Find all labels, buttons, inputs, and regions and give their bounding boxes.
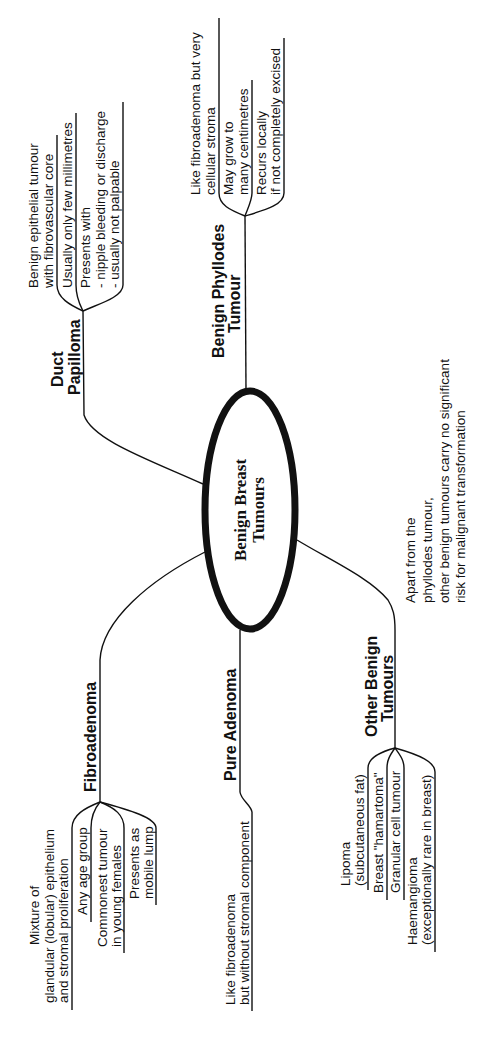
fibro-item2-line1: Any age group <box>75 827 90 915</box>
phyllodes-item2-line1: May grow to <box>221 121 236 195</box>
note-line1: Apart from the <box>403 517 418 603</box>
phyllodes-item2-line2: many centimetres <box>236 88 251 195</box>
duct-papilloma-title-line2: Papilloma <box>66 319 83 395</box>
fibro-item3-line1: Commonest tumour <box>95 828 110 947</box>
phyllodes-item3-line1: Recurs locally <box>254 111 269 195</box>
fibroadenoma-title: Fibroadenoma <box>82 682 99 792</box>
note-line4: risk for malignant transformation <box>453 410 468 603</box>
fibro-item4-line1: Presents as <box>127 827 142 899</box>
duct-item3-line2: - nipple bleeding or discharge <box>93 111 108 288</box>
duct-item2-line1: Usually only few millimetres <box>60 122 75 288</box>
other-item1-line1: Lipoma <box>338 841 353 886</box>
other-item3-line1: Granular cell tumour <box>388 770 403 893</box>
duct-item3-line3: - usually not palpable <box>107 160 122 288</box>
other-item4-line1: Haemangioma <box>405 857 420 945</box>
fibro-item4-line2: mobile lump <box>141 826 156 899</box>
fibro-item1-line1: Mixture of <box>27 885 42 945</box>
fibro-item1-line3: and stromal proliferation <box>56 858 71 1003</box>
central-title-line1: Benign Breast <box>231 459 250 562</box>
phyllodes-title-line1: Benign Phyllodes <box>210 224 227 358</box>
phyllodes-title-line2: Tumour <box>226 275 243 333</box>
phyllodes-item1-line1: Like fibroadenoma but very <box>188 32 203 195</box>
other-item1-line2: (subcutaneous fat) <box>352 774 367 886</box>
pure-adenoma-item1-line1: Like fibroadenoma <box>223 893 238 1005</box>
other-benign-title-line1: Other Benign <box>363 636 380 737</box>
duct-papilloma-title-line1: Duct <box>49 351 66 387</box>
note-line3: other benign tumours carry no significan… <box>437 359 452 603</box>
fibro-item1-line2: glandular (lobular) epithelium <box>42 829 57 1003</box>
connector-duct-papilloma <box>83 311 203 484</box>
pure-adenoma-title: Pure Adenoma <box>222 669 239 781</box>
central-title-line2: Tumours <box>249 477 268 543</box>
duct-item1-line2: with fibrovascular core <box>41 154 56 289</box>
mind-map: Benign Breast Tumours Duct Papilloma Ben… <box>0 0 504 1058</box>
fibro-item3-line2: in young females <box>109 845 124 947</box>
duct-item1-line1: Benign epithelial tumour <box>26 143 41 288</box>
duct-item3-line1: Presents with <box>78 207 93 288</box>
other-item2-line1: Breast "hamartoma" <box>371 772 386 893</box>
pure-adenoma-item1-line2: but without stromal component <box>237 821 252 1005</box>
other-benign-title-line2: Tumours <box>379 655 396 722</box>
phyllodes-item1-line2: cellular stroma <box>203 107 218 195</box>
other-item4-line2: (exceptionally rare in breast) <box>419 775 434 945</box>
phyllodes-item3-line2: if not completely excised <box>268 48 283 195</box>
note-line2: phyllodes tumour, <box>420 497 435 603</box>
connector-fibroadenoma <box>100 552 205 802</box>
connector-phyllodes <box>245 216 246 391</box>
